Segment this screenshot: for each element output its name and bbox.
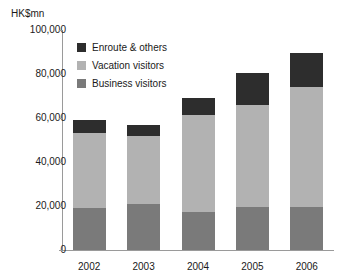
- bar-stack-2003: [127, 125, 160, 250]
- bar-segment: [290, 53, 323, 87]
- bar-segment: [182, 115, 215, 212]
- bar-stack-2002: [73, 120, 106, 250]
- bar-segment: [73, 133, 106, 208]
- plot-area: [62, 30, 334, 250]
- x-axis-tick-label: 2002: [59, 261, 119, 272]
- cropped-title-ghost: [62, 0, 292, 7]
- bar-segment: [236, 207, 269, 250]
- y-axis-tick-mark: [59, 250, 62, 251]
- x-axis-tick-label: 2005: [222, 261, 282, 272]
- x-axis-tick-label: 2006: [277, 261, 337, 272]
- stacked-bar-chart: HK$mn 100,00080,00060,00040,00020,0000 E…: [0, 0, 342, 280]
- bar-stack-2006: [290, 53, 323, 250]
- bar-segment: [127, 125, 160, 136]
- bar-segment: [127, 136, 160, 204]
- bar-segment: [73, 120, 106, 133]
- bar-segment: [236, 105, 269, 207]
- bar-stack-2005: [236, 73, 269, 250]
- bar-segment: [182, 212, 215, 251]
- bar-segment: [236, 73, 269, 105]
- bar-segment: [127, 204, 160, 250]
- bar-stack-2004: [182, 98, 215, 250]
- bar-segment: [290, 87, 323, 207]
- bar-segment: [182, 98, 215, 115]
- bar-segment: [290, 207, 323, 250]
- x-axis-tick-label: 2004: [168, 261, 228, 272]
- x-axis-line: [62, 250, 334, 251]
- y-axis-unit-label: HK$mn: [11, 8, 44, 19]
- bar-segment: [73, 208, 106, 250]
- x-axis-tick-label: 2003: [114, 261, 174, 272]
